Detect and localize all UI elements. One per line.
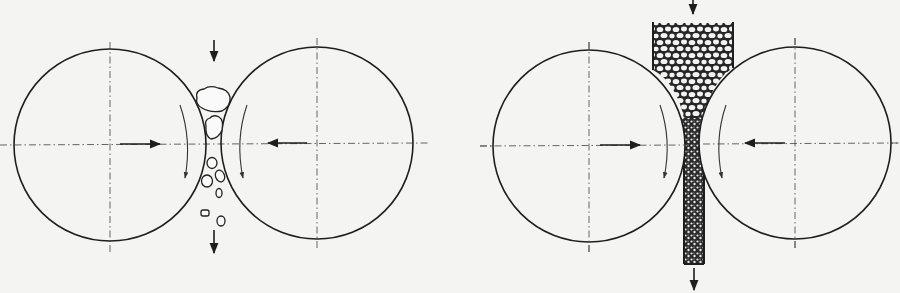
panel-single-particle: [0, 38, 428, 253]
particle: [202, 175, 213, 187]
panel-interparticle-bed: [480, 0, 900, 290]
particle: [217, 216, 225, 226]
diagram-canvas: [0, 0, 900, 293]
roll-crusher-diagram: [0, 0, 900, 293]
rotation-arrow-ccw-icon: [240, 105, 247, 178]
large-particle: [197, 87, 231, 112]
particle: [207, 158, 217, 169]
particles: [197, 87, 231, 226]
horizontal-centerline: [0, 143, 428, 145]
particle: [216, 189, 222, 198]
particle: [206, 116, 223, 139]
particle: [201, 210, 209, 216]
rotation-arrow-cw-icon: [180, 105, 188, 178]
